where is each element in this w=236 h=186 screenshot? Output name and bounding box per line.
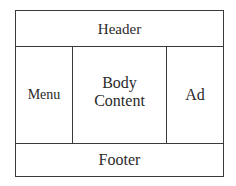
menu-label: Menu (28, 86, 61, 104)
footer-label: Footer (99, 151, 141, 169)
header-region: Header (16, 11, 223, 47)
body-content-region: Body Content (73, 47, 167, 143)
ad-label: Ad (185, 86, 205, 104)
ad-region: Ad (167, 47, 223, 143)
menu-region: Menu (16, 47, 73, 143)
footer-region: Footer (16, 143, 223, 176)
header-label: Header (98, 20, 141, 38)
page-layout-diagram: Header Menu Body Content Ad Footer (15, 10, 224, 177)
body-label-line2: Content (94, 92, 145, 110)
body-label-line1: Body (94, 74, 145, 92)
middle-row: Menu Body Content Ad (16, 47, 223, 143)
